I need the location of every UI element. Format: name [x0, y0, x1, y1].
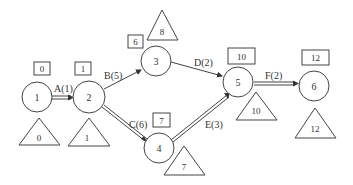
latest-time: 12: [311, 124, 320, 134]
network-diagram: A(1) B(5) C(6) D(2) E(3) F(2) 1 0 0: [0, 0, 353, 185]
latest-time: 1: [85, 133, 90, 143]
edge-label-b: B(5): [104, 70, 122, 82]
node-6: 6 12 12: [295, 50, 336, 138]
edge-label-d: D(2): [194, 57, 213, 69]
node-label: 4: [157, 143, 162, 154]
edge-label-a: A(1): [54, 83, 73, 95]
latest-time: 7: [182, 162, 187, 172]
edge-c: C(6): [102, 105, 147, 142]
earliest-time: 0: [40, 64, 45, 74]
edge-e: E(3): [171, 93, 230, 142]
edge-d: D(2): [171, 57, 222, 76]
latest-time: 10: [252, 106, 262, 116]
earliest-time: 10: [237, 52, 247, 62]
node-label: 3: [154, 56, 159, 67]
earliest-time: 6: [133, 37, 138, 47]
node-1: 1 0 0: [19, 62, 60, 145]
node-label: 2: [87, 92, 92, 103]
latest-time: 0: [37, 133, 42, 143]
latest-time: 8: [160, 27, 165, 37]
earliest-time: 12: [311, 53, 320, 63]
earliest-time: 7: [159, 116, 164, 126]
node-label: 1: [35, 92, 40, 103]
edge-label-e: E(3): [205, 119, 223, 131]
earliest-time: 1: [81, 64, 86, 74]
edge-b: B(5): [104, 70, 141, 89]
node-5: 5 10 10: [223, 48, 277, 120]
node-4: 4 7 7: [144, 113, 205, 175]
edge-a: A(1): [52, 83, 74, 101]
edge-f: F(2): [254, 70, 299, 87]
node-label: 6: [312, 81, 317, 92]
edge-label-c: C(6): [129, 119, 147, 131]
edge-label-f: F(2): [265, 70, 282, 82]
node-3: 3 6 8: [128, 10, 178, 76]
node-label: 5: [236, 77, 241, 88]
